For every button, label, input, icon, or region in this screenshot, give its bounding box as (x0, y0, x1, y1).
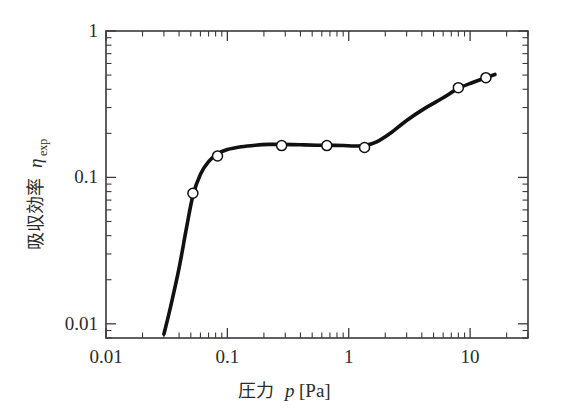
data-point-marker (453, 83, 463, 93)
x-axis-label-jp: 圧力 (238, 380, 274, 401)
x-tick-label: 10 (461, 346, 480, 367)
data-markers (188, 73, 491, 199)
x-axis-tick-labels: 0.010.1110 (89, 346, 479, 367)
x-axis-label-symbol: p (283, 380, 295, 401)
y-axis-ticks (106, 31, 528, 338)
x-axis-label: 圧力 p [Pa] (238, 380, 331, 401)
figure-container: 0.010.1110 0.010.11 圧力 p [Pa] 吸収効率 η exp (0, 0, 561, 419)
data-point-marker (213, 151, 223, 161)
x-tick-label: 0.1 (215, 346, 239, 367)
x-axis-label-unit: [Pa] (299, 380, 331, 401)
y-tick-label: 1 (89, 20, 99, 41)
data-point-marker (277, 141, 287, 151)
y-axis-label-jp: 吸収効率 (25, 178, 46, 250)
y-axis-label-subscript: exp (36, 139, 50, 156)
axes-frame (106, 31, 528, 338)
data-point-marker (481, 73, 491, 83)
y-tick-label: 0.01 (65, 313, 98, 334)
y-axis-label-symbol: η (25, 159, 46, 168)
chart-plot: 0.010.1110 0.010.11 圧力 p [Pa] 吸収効率 η exp (0, 0, 561, 419)
data-point-marker (188, 188, 198, 198)
y-tick-label: 0.1 (74, 166, 98, 187)
x-axis-ticks (106, 31, 528, 338)
data-curve (164, 74, 495, 334)
data-point-marker (360, 143, 370, 153)
x-tick-label: 1 (344, 346, 354, 367)
data-point-marker (322, 141, 332, 151)
x-tick-label: 0.01 (89, 346, 122, 367)
y-axis-tick-labels: 0.010.11 (65, 20, 98, 334)
y-axis-label: 吸収効率 η exp (25, 139, 50, 250)
